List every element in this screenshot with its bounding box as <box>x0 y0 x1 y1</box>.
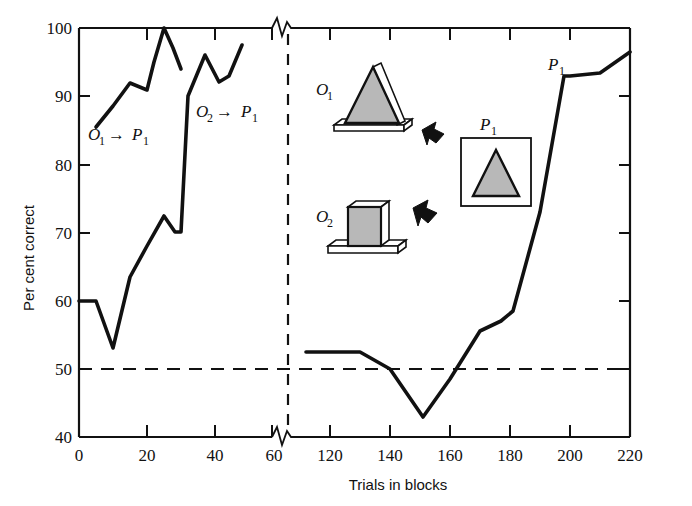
y-tick-marks-right <box>619 96 630 369</box>
x-tick-label-220: 220 <box>617 446 643 465</box>
picture-p1-label-sub: 1 <box>491 124 497 138</box>
picture-p1-label-base: P <box>479 115 490 134</box>
axis-break-top <box>272 18 296 36</box>
annotation-o1-p1-sub: 1 <box>99 134 105 148</box>
figure-root: 100 90 80 70 60 50 40 0 20 40 60 120 140 <box>0 0 692 506</box>
y-tick-label-50: 50 <box>55 360 72 379</box>
x-tick-label-200: 200 <box>557 446 583 465</box>
y-axis-title: Per cent correct <box>20 204 37 311</box>
x-tick-marks <box>79 425 570 437</box>
x-tick-label-40: 40 <box>207 446 224 465</box>
arrow-o2-to-p1 <box>413 200 437 226</box>
x-tick-label-140: 140 <box>377 446 403 465</box>
annotation-o1-p1-arrow: → <box>108 125 125 144</box>
annotation-o2-p1-arrow: → <box>216 102 233 121</box>
annotation-o2-p1-target: P <box>240 102 251 121</box>
chart-svg: 100 90 80 70 60 50 40 0 20 40 60 120 140 <box>0 0 692 506</box>
y-tick-label-80: 80 <box>55 156 72 175</box>
annotation-o1-p1-target: P <box>131 125 142 144</box>
x-tick-label-20: 20 <box>139 446 156 465</box>
annotation-o2-p1-target-sub: 1 <box>252 111 258 125</box>
annotation-p1-right-sub: 1 <box>559 64 565 78</box>
x-tick-label-180: 180 <box>497 446 523 465</box>
y-tick-label-70: 70 <box>55 224 72 243</box>
series-o1-p1 <box>96 28 181 127</box>
x-tick-marks-top <box>147 28 570 40</box>
object-o1-illustration: O 1 <box>316 63 412 131</box>
y-tick-label-90: 90 <box>55 87 72 106</box>
y-tick-labels: 100 90 80 70 60 50 40 <box>47 19 73 447</box>
object-o2-label-sub: 2 <box>327 216 333 230</box>
annotation-p1-right: P 1 <box>547 55 565 78</box>
annotation-o1-p1-target-sub: 1 <box>143 134 149 148</box>
y-tick-marks <box>79 96 90 437</box>
annotation-p1-right-base: P <box>547 55 558 74</box>
x-tick-labels: 0 20 40 60 120 140 160 180 200 220 <box>75 446 643 465</box>
axis-break-bottom <box>272 427 296 445</box>
object-o1-label-sub: 1 <box>327 89 333 103</box>
x-tick-label-160: 160 <box>437 446 463 465</box>
y-tick-label-100: 100 <box>47 19 73 38</box>
picture-p1-illustration: P 1 <box>461 115 531 206</box>
y-tick-label-40: 40 <box>55 428 72 447</box>
x-tick-label-120: 120 <box>317 446 343 465</box>
series-o2-p1 <box>79 45 242 348</box>
x-tick-label-0: 0 <box>75 446 84 465</box>
x-axis-title: Trials in blocks <box>349 476 448 493</box>
arrow-o1-to-p1 <box>422 122 444 145</box>
annotation-o2-p1: O 2 → P 1 <box>196 102 258 125</box>
annotation-o2-p1-sub: 2 <box>207 111 213 125</box>
y-tick-label-60: 60 <box>55 292 72 311</box>
object-o2-illustration: O 2 <box>316 201 406 253</box>
annotation-o1-p1: O 1 → P 1 <box>88 125 149 148</box>
x-tick-label-60: 60 <box>266 446 283 465</box>
